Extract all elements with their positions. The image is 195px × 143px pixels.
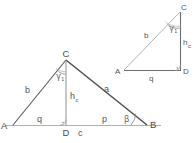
main-side-label-p: p [102,114,107,124]
svg-text:1: 1 [61,76,65,82]
main-side-label-c: c [78,128,83,138]
main-vertex-label-B: B [150,119,156,130]
main-side-label-a: a [104,84,109,94]
main-vertex-label-C: C [63,48,70,59]
svg-text:1: 1 [174,28,178,34]
small-side-label-q: q [149,74,153,83]
svg-text:c: c [76,97,79,103]
main-angle-label-beta: β [124,114,129,124]
svg-text:c: c [188,43,191,49]
main-side-label-q: q [37,114,42,124]
diagram-canvas: A B C D b a q p c h c γ 1 β [0,0,195,143]
main-right-angle-dot-D [62,122,64,124]
small-triangle-group: A C D b q h c γ 1 [115,3,191,83]
small-side-label-b: b [144,31,149,40]
main-angle-label-gamma1: γ 1 [56,71,65,82]
main-vertex-label-D: D [63,127,70,138]
small-right-angle-dot-D [177,67,179,69]
geometry-diagram: A B C D b a q p c h c γ 1 β [0,0,195,143]
small-vertex-label-A: A [115,67,121,76]
svg-text:h: h [183,38,187,47]
main-side-label-b: b [25,85,30,95]
small-vertex-label-C: C [181,3,187,12]
svg-text:h: h [70,91,75,101]
main-side-label-hc: h c [70,91,79,103]
small-hypotenuse-b-line [124,12,180,70]
main-triangle-group: A B C D b a q p c h c γ 1 β [1,48,161,138]
main-vertex-label-A: A [1,120,8,131]
small-side-label-hc: h c [183,38,191,49]
small-angle-label-gamma1: γ 1 [169,23,178,34]
small-vertex-label-D: D [183,67,189,76]
